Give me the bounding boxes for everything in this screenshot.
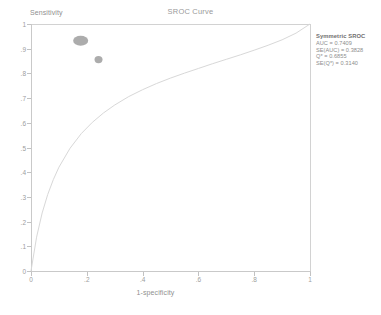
stats-se-auc: SE(AUC) = 0.3828 (316, 47, 378, 54)
sroc-statistics-box: Symmetric SROC AUC = 0.7409 SE(AUC) = 0.… (316, 33, 378, 66)
sroc-curve (31, 24, 310, 271)
stats-se-qstar: SE(Q*) = 0.3140 (316, 60, 378, 67)
study-marker (95, 56, 103, 63)
study-marker (73, 36, 88, 46)
x-tick-label: .6 (196, 276, 201, 283)
y-tick-label: .8 (21, 70, 26, 77)
y-tick-label: .3 (21, 193, 26, 200)
x-tick-label: 1 (308, 276, 312, 283)
plot-area: 0.1.2.3.4.5.6.7.8.91 0.2.4.6.81 (31, 24, 311, 272)
x-tick-label: 0 (29, 276, 33, 283)
y-tick-label: .4 (21, 169, 26, 176)
y-tick-label: .7 (21, 95, 26, 102)
x-tick-label: .2 (84, 276, 89, 283)
y-tick-label: .9 (21, 45, 26, 52)
y-tick-label: .1 (21, 243, 26, 250)
stats-qstar: Q* = 0.6855 (316, 53, 378, 60)
y-axis-label: Sensitivity (30, 9, 63, 16)
y-tick-label: .5 (21, 144, 26, 151)
x-tick-label: .4 (140, 276, 145, 283)
stats-heading: Symmetric SROC (316, 33, 378, 40)
stats-auc: AUC = 0.7409 (316, 40, 378, 47)
y-tick-label: 1 (22, 21, 26, 28)
x-tick-label: .8 (251, 276, 256, 283)
y-tick-label: .6 (21, 119, 26, 126)
y-tick-label: 0 (22, 268, 26, 275)
sroc-plot-svg (31, 24, 311, 272)
y-tick-label: .2 (21, 218, 26, 225)
study-marker-group (73, 36, 102, 63)
x-axis-label: 1-specificity (0, 289, 311, 296)
sroc-chart: SROC Curve Sensitivity 1-specificity 0.1… (0, 0, 381, 315)
